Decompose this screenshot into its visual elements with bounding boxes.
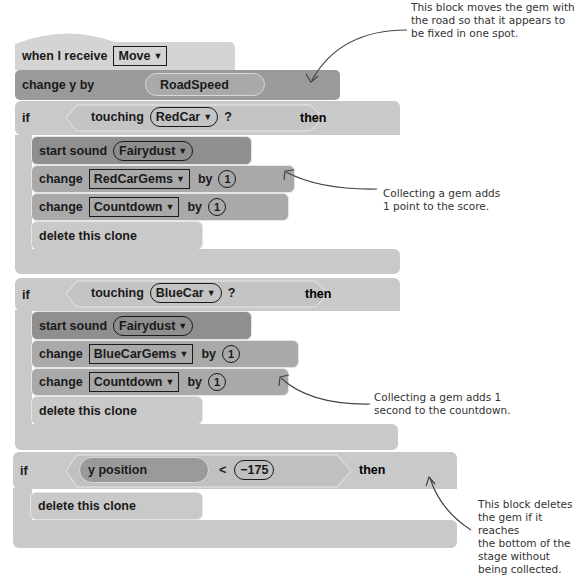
delete-clone-block[interactable]: delete this clone <box>30 492 203 520</box>
variable-dropdown[interactable]: RedCarGems▼ <box>89 169 190 189</box>
dropdown-arrow-icon: ▼ <box>178 146 187 156</box>
if-label: if <box>22 111 30 125</box>
dropdown-arrow-icon: ▼ <box>179 349 188 359</box>
change-y-label: change y by <box>22 78 152 92</box>
amount-input[interactable]: 1 <box>208 373 226 391</box>
dropdown-arrow-icon: ▼ <box>176 174 185 184</box>
amount-input[interactable]: 1 <box>222 345 240 363</box>
dropdown-arrow-icon: ▼ <box>153 51 162 61</box>
change-y-block[interactable]: change y by RoadSpeed <box>15 70 340 100</box>
change-countdown-block[interactable]: change Countdown▼ by 1 <box>31 368 289 396</box>
if-label: if <box>20 464 28 478</box>
start-sound-block[interactable]: start sound Fairydust▼ <box>31 136 252 165</box>
arrow-blue <box>281 378 370 404</box>
delete-clone-block[interactable]: delete this clone <box>31 221 203 250</box>
dropdown-arrow-icon: ▼ <box>203 112 212 122</box>
sprite-dropdown[interactable]: RedCar▼ <box>150 107 218 127</box>
arrow-red <box>286 172 377 189</box>
annotation-delete: This block deletes the gem if it reaches… <box>478 498 583 576</box>
annotation-countdown: Collecting a gem adds 1 second to the co… <box>374 391 511 417</box>
dropdown-arrow-icon: ▼ <box>166 377 175 387</box>
if-footer <box>15 424 398 450</box>
value-input[interactable]: −175 <box>234 460 274 480</box>
annotation-score: Collecting a gem adds 1 point to the sco… <box>383 187 500 213</box>
dropdown-arrow-icon: ▼ <box>178 321 187 331</box>
then-label: then <box>300 111 326 125</box>
sprite-dropdown[interactable]: BlueCar▼ <box>150 283 222 303</box>
change-bluecargems-block[interactable]: change BlueCarGems▼ by 1 <box>31 340 299 368</box>
y-position-reporter[interactable]: y position <box>79 457 209 483</box>
variable-dropdown[interactable]: Countdown▼ <box>89 197 180 217</box>
start-sound-block[interactable]: start sound Fairydust▼ <box>31 311 252 340</box>
if-label: if <box>22 288 30 302</box>
annotation-move-block: This block moves the gem with the road s… <box>411 1 575 40</box>
dropdown-arrow-icon: ▼ <box>207 288 216 298</box>
variable-dropdown[interactable]: BlueCarGems▼ <box>89 344 194 364</box>
when-i-receive-label: when I receive <box>22 49 107 63</box>
message-dropdown[interactable]: Move▼ <box>113 46 167 66</box>
delete-clone-block[interactable]: delete this clone <box>31 396 203 425</box>
less-than-condition[interactable]: y position < −175 <box>65 454 351 486</box>
dropdown-arrow-icon: ▼ <box>166 202 175 212</box>
if-footer <box>13 520 457 548</box>
if-arm <box>15 135 32 250</box>
then-label: then <box>359 463 385 477</box>
change-redcargems-block[interactable]: change RedCarGems▼ by 1 <box>31 165 295 193</box>
sound-dropdown[interactable]: Fairydust▼ <box>113 316 193 336</box>
amount-input[interactable]: 1 <box>208 198 226 216</box>
if-footer <box>15 249 400 274</box>
less-than-operator: < <box>219 463 226 477</box>
then-label: then <box>305 287 331 301</box>
amount-input[interactable]: 1 <box>218 170 236 188</box>
variable-dropdown[interactable]: Countdown▼ <box>89 372 180 392</box>
if-arm <box>15 310 32 426</box>
touching-bluecar-condition[interactable]: touching BlueCar▼ ? <box>65 280 330 306</box>
touching-redcar-condition[interactable]: touching RedCar▼ ? <box>65 104 325 130</box>
roadspeed-reporter[interactable]: RoadSpeed <box>145 73 265 96</box>
change-countdown-block[interactable]: change Countdown▼ by 1 <box>31 193 289 221</box>
sound-dropdown[interactable]: Fairydust▼ <box>113 141 193 161</box>
